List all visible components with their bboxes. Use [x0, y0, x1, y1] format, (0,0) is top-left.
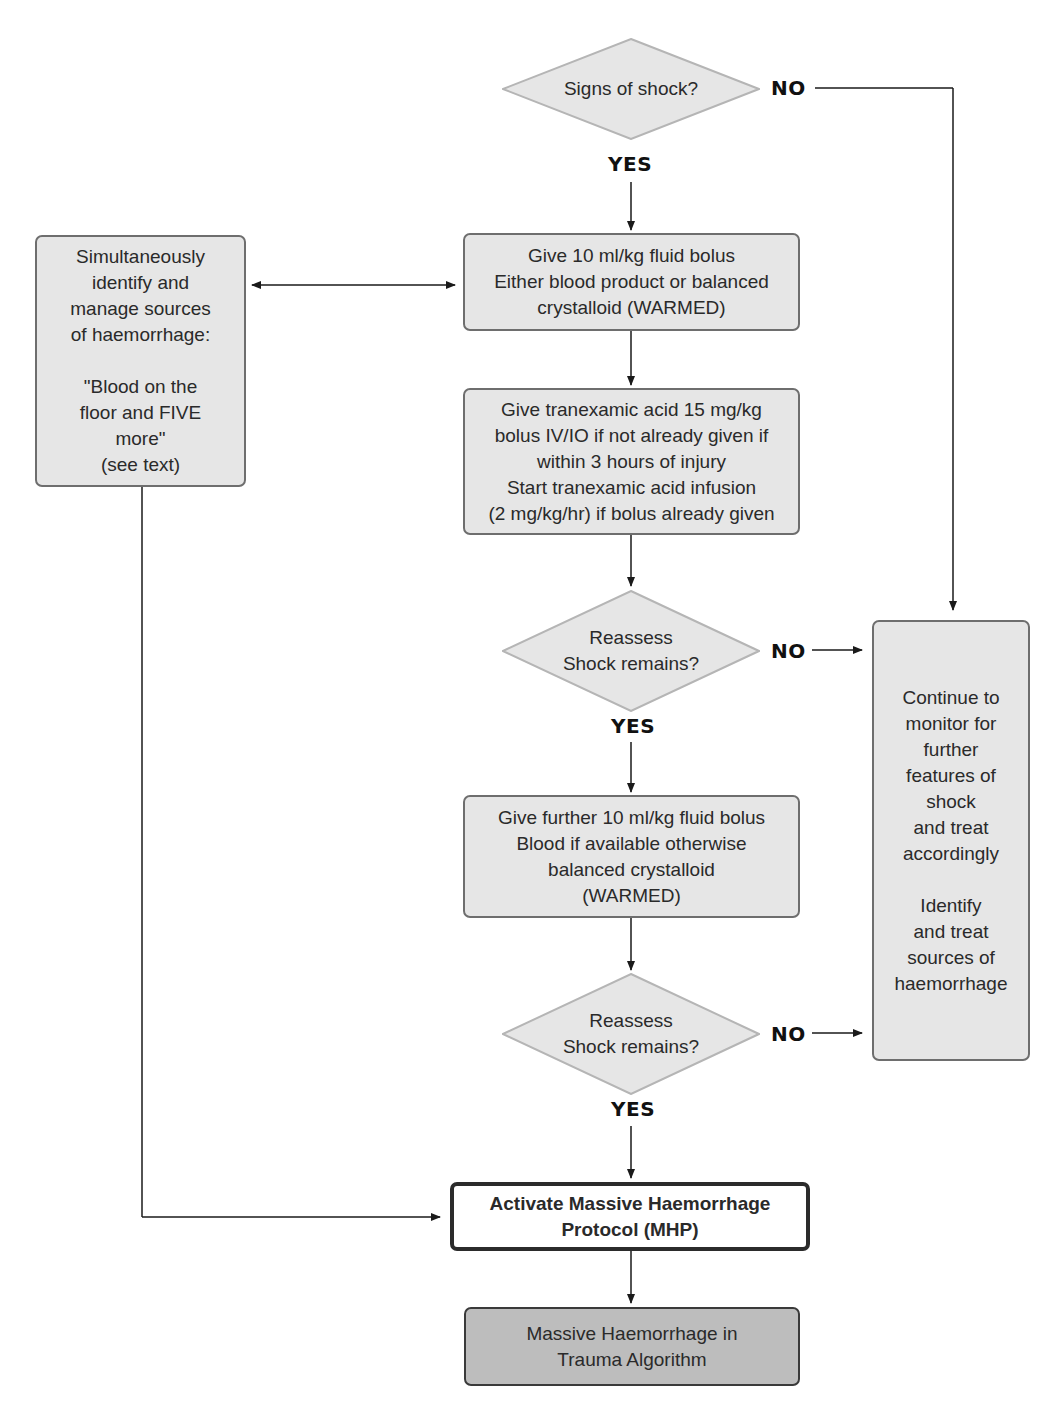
box-text: Give 10 ml/kg fluid bolus Either blood p… — [494, 243, 769, 321]
yes-label: YES — [608, 152, 652, 176]
no-label: NO — [771, 76, 806, 100]
box-text: Give further 10 ml/kg fluid bolus Blood … — [498, 805, 765, 909]
yes-label: YES — [611, 714, 655, 738]
decision-text: Signs of shock? — [502, 38, 760, 140]
box-text: Activate Massive Haemorrhage Protocol (M… — [490, 1191, 771, 1243]
box-activate-mhp: Activate Massive Haemorrhage Protocol (M… — [450, 1182, 810, 1251]
box-continue-monitor: Continue to monitor for further features… — [872, 620, 1030, 1061]
decision-text: Reassess Shock remains? — [502, 973, 760, 1095]
box-text: Continue to monitor for further features… — [894, 685, 1007, 997]
no-label: NO — [771, 639, 806, 663]
box-fluid-bolus-1: Give 10 ml/kg fluid bolus Either blood p… — [463, 233, 800, 331]
box-haemorrhage-sources: Simultaneously identify and manage sourc… — [35, 235, 246, 487]
box-tranexamic-acid: Give tranexamic acid 15 mg/kg bolus IV/I… — [463, 388, 800, 535]
decision-text: Reassess Shock remains? — [502, 590, 760, 712]
decision-reassess-1: Reassess Shock remains? — [502, 590, 760, 712]
yes-label: YES — [611, 1097, 655, 1121]
decision-signs-of-shock: Signs of shock? — [502, 38, 760, 140]
box-text: Massive Haemorrhage in Trauma Algorithm — [526, 1321, 737, 1373]
box-text: Give tranexamic acid 15 mg/kg bolus IV/I… — [488, 397, 774, 527]
box-fluid-bolus-2: Give further 10 ml/kg fluid bolus Blood … — [463, 795, 800, 918]
box-trauma-algorithm: Massive Haemorrhage in Trauma Algorithm — [464, 1307, 800, 1386]
decision-reassess-2: Reassess Shock remains? — [502, 973, 760, 1095]
no-label: NO — [771, 1022, 806, 1046]
box-text: Simultaneously identify and manage sourc… — [70, 244, 210, 478]
